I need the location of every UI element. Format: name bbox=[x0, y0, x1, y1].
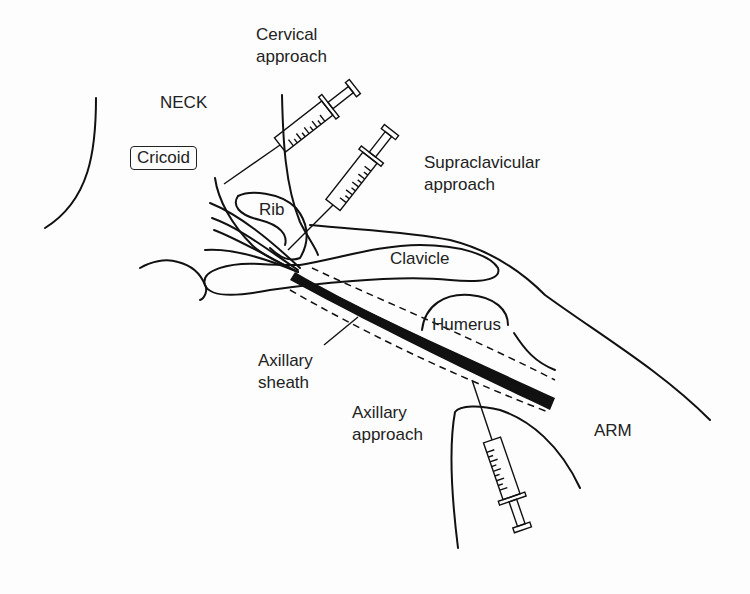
brachial-plexus-diagram: Cervical approach NECK Cricoid Supraclav… bbox=[0, 0, 750, 594]
cervical-syringe-icon bbox=[224, 75, 363, 184]
clavicle-label: Clavicle bbox=[390, 248, 450, 270]
label-line: Axillary bbox=[352, 402, 423, 424]
axillary-approach-label: Axillary approach bbox=[352, 402, 423, 446]
cervical-approach-label: Cervical approach bbox=[256, 24, 327, 68]
arm-label: ARM bbox=[594, 420, 632, 442]
label-line: Axillary bbox=[258, 350, 313, 372]
sheath-lower bbox=[290, 290, 548, 412]
label-line: approach bbox=[352, 424, 423, 446]
label-line: approach bbox=[256, 46, 327, 68]
neck-outline bbox=[45, 98, 96, 228]
clavicle-outline bbox=[204, 245, 498, 295]
cricoid-label: Cricoid bbox=[130, 146, 197, 170]
label-line: sheath bbox=[258, 372, 313, 394]
label-line: approach bbox=[424, 174, 540, 196]
supraclavicular-approach-label: Supraclavicular approach bbox=[424, 152, 540, 196]
skin-outline bbox=[140, 260, 206, 300]
axillary-syringe-icon bbox=[472, 380, 536, 534]
sheath-pointer bbox=[324, 317, 358, 345]
rib-label: Rib bbox=[259, 199, 285, 221]
humerus-label: Humerus bbox=[432, 314, 501, 336]
bundle-highlight bbox=[300, 278, 552, 402]
label-line: Supraclavicular bbox=[424, 152, 540, 174]
anatomy-drawing bbox=[0, 0, 750, 594]
axillary-sheath-label: Axillary sheath bbox=[258, 350, 313, 394]
label-line: Cervical bbox=[256, 24, 327, 46]
neck-label: NECK bbox=[160, 92, 207, 114]
muscle-outline bbox=[282, 95, 318, 255]
